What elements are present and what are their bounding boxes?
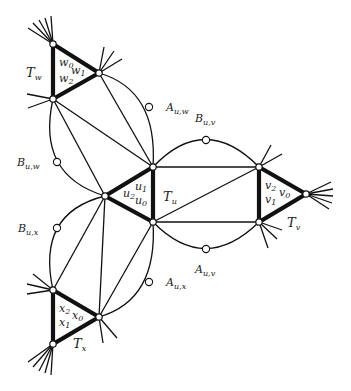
vertex-w0 bbox=[50, 41, 56, 47]
label-u0: u0 bbox=[135, 194, 147, 208]
vertex-v0 bbox=[303, 191, 309, 197]
vertex-u1 bbox=[150, 164, 156, 170]
vertex-b-uw bbox=[53, 158, 60, 165]
vertex-u0 bbox=[150, 219, 156, 225]
vertex-v1 bbox=[256, 219, 262, 225]
vertex-x1 bbox=[50, 341, 56, 347]
connecting-edges bbox=[53, 73, 259, 317]
label-x1: x1 bbox=[59, 316, 70, 330]
vertex-a-ux bbox=[145, 278, 152, 285]
label-v0: v0 bbox=[279, 186, 290, 200]
label-x2: x2 bbox=[59, 302, 70, 316]
label-a-uv: Au,v bbox=[194, 263, 216, 278]
vertex-w1 bbox=[96, 70, 102, 76]
label-w1: w1 bbox=[71, 64, 86, 78]
vertex-b-ux bbox=[53, 224, 60, 231]
label-b-ux: Bu,x bbox=[17, 222, 39, 237]
vertex-x0 bbox=[96, 314, 102, 320]
vertex-a-uw bbox=[145, 103, 152, 110]
label-t-x: Tx bbox=[73, 336, 87, 353]
label-u2: u2 bbox=[123, 187, 135, 201]
label-t-v: Tv bbox=[287, 215, 301, 232]
label-a-uw: Au,w bbox=[165, 101, 189, 116]
label-x0: x0 bbox=[72, 309, 83, 323]
label-a-ux: Au,x bbox=[165, 276, 187, 291]
label-v2: v2 bbox=[265, 179, 276, 193]
label-t-w: Tw bbox=[26, 65, 42, 82]
label-v1: v1 bbox=[265, 193, 276, 207]
label-t-u: Tu bbox=[163, 189, 177, 206]
vertex-w2 bbox=[50, 96, 56, 102]
label-u1: u1 bbox=[135, 180, 147, 194]
label-b-uw: Bu,w bbox=[16, 156, 40, 171]
graph-diagram: Tw Tu Tv Tx w0 w1 w2 u1 u2 u0 v2 v0 v1 x… bbox=[0, 0, 351, 391]
vertex-b-uv bbox=[202, 136, 209, 143]
vertex-v2 bbox=[256, 164, 262, 170]
subdivision-labels: Au,w Bu,v Bu,w Bu,x Au,v Au,x bbox=[16, 101, 216, 291]
vertex-a-uv bbox=[202, 245, 209, 252]
vertex-u2 bbox=[102, 193, 108, 199]
label-b-uv: Bu,v bbox=[194, 112, 216, 127]
vertex-x2 bbox=[50, 287, 56, 293]
